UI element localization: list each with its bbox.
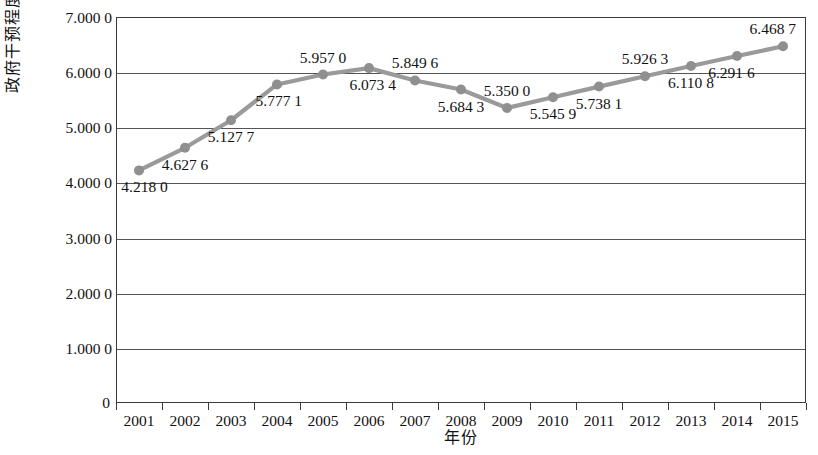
x-axis-tick [806,403,807,410]
x-axis-title: 年份 [116,428,806,448]
x-axis-tick-label: 2010 [538,412,569,429]
x-axis-tick [622,403,623,410]
data-point-value-label: 5.738 1 [576,96,623,112]
y-axis-zero-label: 0 [22,395,110,411]
x-axis-tick-label: 2003 [216,412,247,429]
y-axis-tick-label: 3.000 0 [24,231,112,247]
data-point-marker[interactable] [364,63,374,73]
data-point-value-label: 5.849 6 [392,55,439,71]
x-axis-tick [760,403,761,410]
data-point-marker[interactable] [272,79,282,89]
x-axis-tick-label: 2004 [262,412,293,429]
data-point-value-label: 6.073 4 [349,77,396,93]
x-axis-tick-label: 2011 [584,412,614,429]
data-point-value-label: 6.291 6 [708,65,755,81]
x-axis-tick [300,403,301,410]
data-point-marker[interactable] [134,165,144,175]
x-axis-tick-label: 2012 [630,412,661,429]
data-point-marker[interactable] [318,70,328,80]
data-point-marker[interactable] [180,143,190,153]
data-point-marker[interactable] [732,51,742,61]
data-point-marker[interactable] [226,115,236,125]
data-point-value-label: 4.627 6 [162,157,209,173]
x-axis-tick [438,403,439,410]
x-axis-tick [530,403,531,410]
line-chart-figure: 政府干预程度 7.000 06.000 05.000 04.000 03.000… [0,0,818,455]
data-point-value-label: 4.218 0 [121,179,168,195]
x-axis-tick-label: 2007 [400,412,431,429]
data-point-marker[interactable] [456,85,466,95]
data-point-value-label: 5.545 9 [530,106,577,122]
x-axis-tick-label: 2002 [170,412,201,429]
data-point-value-label: 5.777 1 [256,93,302,109]
data-point-value-label: 5.957 0 [300,50,347,66]
x-axis-tick [392,403,393,410]
x-axis-tick-label: 2001 [124,412,155,429]
y-axis-tick-labels: 7.000 06.000 05.000 04.000 03.000 02.000… [22,0,112,455]
y-axis-tick-label: 6.000 0 [24,65,112,81]
data-point-value-label: 5.350 0 [484,83,531,99]
x-axis-tick-label: 2008 [446,412,477,429]
data-point-value-label: 6.110 8 [668,75,714,91]
x-axis-tick-label: 2006 [354,412,385,429]
data-point-value-label: 5.684 3 [438,99,485,115]
y-axis-title: 政府干预程度 [2,0,24,142]
y-axis-tick-label: 1.000 0 [24,341,112,357]
data-point-marker[interactable] [778,41,788,51]
x-axis-tick-label: 2005 [308,412,339,429]
x-axis-tick-label: 2009 [492,412,523,429]
x-axis-tick-label: 2014 [722,412,753,429]
x-axis-tick [668,403,669,410]
x-axis-tick-label: 2015 [768,412,799,429]
data-point-marker[interactable] [686,61,696,71]
x-axis-tick [346,403,347,410]
data-point-marker[interactable] [502,103,512,113]
x-axis-tick [116,403,117,410]
x-axis-tick [576,403,577,410]
data-point-value-label: 5.127 7 [208,129,255,145]
data-point-marker[interactable] [548,92,558,102]
y-axis-tick-label: 2.000 0 [24,286,112,302]
x-axis-tick-label: 2013 [676,412,707,429]
data-point-marker[interactable] [594,82,604,92]
data-point-value-label: 6.468 7 [750,21,797,37]
data-point-marker[interactable] [410,75,420,85]
data-point-value-label: 5.926 3 [622,51,669,67]
x-axis-tick [208,403,209,410]
x-axis-title-label: 年份 [444,429,478,446]
data-point-marker[interactable] [640,71,650,81]
y-axis-title-label: 政府干预程度 [2,0,24,142]
x-axis-tick [484,403,485,410]
x-axis-tick [162,403,163,410]
x-axis-tick [714,403,715,410]
x-axis-tick [254,403,255,410]
y-axis-tick-label: 4.000 0 [24,175,112,191]
y-axis-tick-label: 7.000 0 [24,10,112,26]
y-axis-tick-label: 5.000 0 [24,120,112,136]
